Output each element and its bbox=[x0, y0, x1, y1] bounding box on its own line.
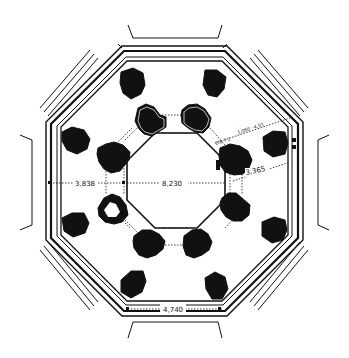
dimension-bottom-side: 4,740 bbox=[163, 306, 183, 314]
outer-pier-wnw bbox=[62, 127, 90, 154]
outer-pier-ssw bbox=[121, 271, 146, 298]
inner-pier-s-left bbox=[133, 230, 165, 258]
outer-pier-ene bbox=[263, 131, 288, 157]
outer-pier-ese bbox=[262, 217, 287, 243]
inner-pier-w-bottom bbox=[98, 194, 128, 224]
dimension-left-ambulatory: 3,838 bbox=[75, 180, 95, 188]
dimension-center-span: 8,230 bbox=[162, 180, 182, 188]
outer-pier-sse bbox=[205, 272, 228, 299]
outer-pier-nnw bbox=[120, 68, 145, 99]
outer-pier-wsw bbox=[62, 213, 89, 237]
dimension-diagonal: 1,060 · 4,53 bbox=[237, 122, 265, 135]
inner-pier-e-bottom bbox=[220, 193, 250, 221]
inner-pier-n-right bbox=[181, 104, 211, 133]
inner-pier-s-right bbox=[183, 229, 212, 258]
inner-pier-w-top bbox=[97, 142, 130, 173]
octagonal-floor-plan: 3,838 8,230 3,365 1,060 · 4,53 0.6 7 2 4… bbox=[0, 0, 349, 358]
outer-pier-nne bbox=[203, 70, 226, 97]
